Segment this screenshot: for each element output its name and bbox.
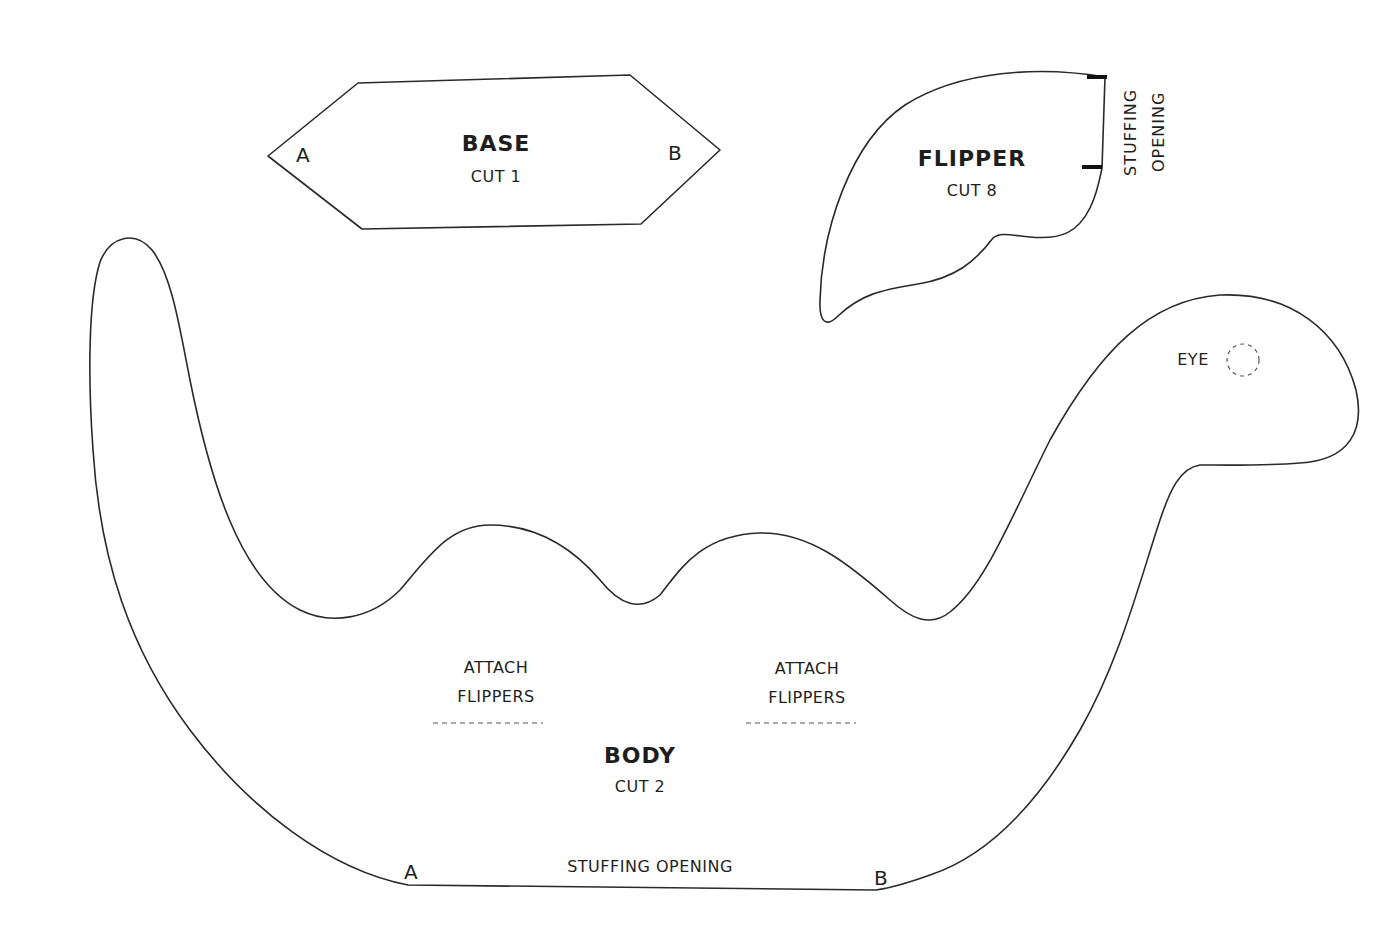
- base-point-b: B: [664, 141, 686, 165]
- body-title: BODY: [580, 743, 700, 768]
- flipper-opening-label-line2: OPENING: [1148, 92, 1170, 172]
- attach-right-line1: ATTACH: [747, 654, 867, 683]
- base-point-a: A: [292, 143, 314, 167]
- base-title: BASE: [440, 131, 552, 156]
- attach-flippers-left-label: ATTACH FLIPPERS: [436, 653, 556, 711]
- body-point-b: B: [870, 866, 892, 890]
- flipper-opening-label-line1: STUFFING: [1120, 89, 1142, 176]
- body-point-a: A: [400, 860, 422, 884]
- body-stuffing-opening-label: STUFFING OPENING: [540, 857, 760, 876]
- base-cut-count: CUT 1: [440, 167, 552, 186]
- attach-left-line1: ATTACH: [436, 653, 556, 682]
- flipper-title: FLIPPER: [902, 146, 1042, 171]
- attach-right-line2: FLIPPERS: [747, 683, 867, 712]
- attach-left-line2: FLIPPERS: [436, 682, 556, 711]
- eye-label: EYE: [1172, 350, 1214, 369]
- flipper-cut-count: CUT 8: [902, 181, 1042, 200]
- eye-placement-circle: [1227, 344, 1259, 376]
- body-cut-count: CUT 2: [580, 777, 700, 796]
- attach-flippers-right-label: ATTACH FLIPPERS: [747, 654, 867, 712]
- body-piece-outline: [90, 238, 1359, 890]
